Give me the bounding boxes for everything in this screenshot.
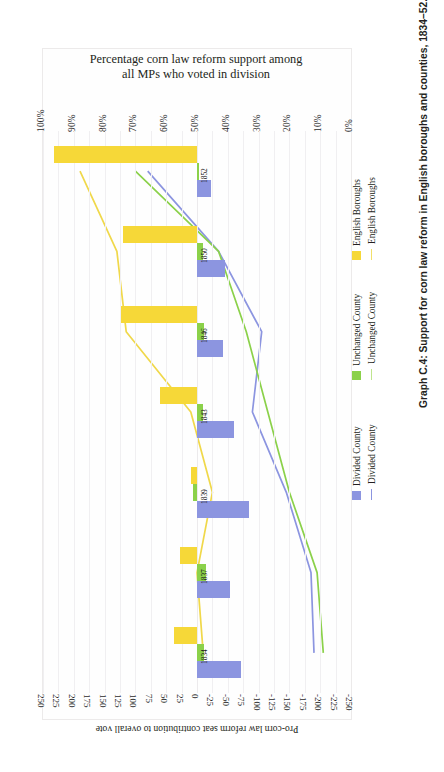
chart-title-line-1: Percentage corn law reform support among <box>46 52 346 67</box>
value-tick: 150 <box>98 694 108 708</box>
gridline <box>305 131 306 693</box>
percent-tick: 20% <box>282 114 292 132</box>
percent-tick: 90% <box>67 114 77 132</box>
legend-item[interactable]: Unchanged County <box>367 292 377 380</box>
legend-label: Unchanged County <box>352 294 362 366</box>
legend-item[interactable]: Unchanged County <box>352 294 362 380</box>
percent-tick: 40% <box>221 114 231 132</box>
gridline <box>135 131 136 693</box>
year-label: 1837 <box>200 569 209 584</box>
bar <box>193 484 197 501</box>
legend-label: English Boroughs <box>367 177 377 244</box>
bar <box>54 146 197 163</box>
legend-bar-swatch <box>352 251 361 260</box>
gridline <box>43 131 44 693</box>
percent-tick: 100% <box>36 109 46 132</box>
bar <box>121 306 197 323</box>
value-tick: 75 <box>144 694 154 703</box>
percent-tick: 10% <box>313 114 323 132</box>
value-tick: 200 <box>67 694 77 708</box>
bar <box>180 547 197 564</box>
legend-bar-swatch <box>352 371 361 380</box>
value-tick: -125 <box>267 694 277 711</box>
value-tick: -25 <box>205 694 215 706</box>
value-tick: -250 <box>344 694 354 711</box>
percent-tick: 80% <box>98 114 108 132</box>
value-tick: -200 <box>313 694 323 711</box>
value-tick: 25 <box>175 694 185 703</box>
gridline <box>320 131 321 693</box>
value-tick: -175 <box>298 694 308 711</box>
legend-label: Divided County <box>367 424 377 484</box>
plot-area: 1834183718391843184618501852 <box>43 131 351 693</box>
line-series <box>80 171 212 653</box>
figure-caption: Graph C.4: Support for corn law reform i… <box>418 48 429 408</box>
legend-item[interactable]: Divided County <box>367 424 377 500</box>
legend-line-swatch <box>371 369 372 380</box>
value-tick: -100 <box>252 694 262 711</box>
gridline <box>182 131 183 693</box>
bar <box>191 467 197 484</box>
gridline <box>228 131 229 693</box>
value-tick: -225 <box>329 694 339 711</box>
legend-line-swatch <box>371 489 372 500</box>
value-tick: 50 <box>159 694 169 703</box>
gridline <box>89 131 90 693</box>
percent-axis: 100%90%80%70%60%50%40%30%20%10%0% <box>42 86 352 132</box>
gridline <box>243 131 244 693</box>
chart-title: Percentage corn law reform support among… <box>46 52 346 81</box>
value-tick: -50 <box>221 694 231 706</box>
figure-page: Percentage corn law reform support among… <box>0 0 444 772</box>
value-tick: -75 <box>236 694 246 706</box>
gridline <box>336 131 337 693</box>
gridline <box>259 131 260 693</box>
value-tick: 0 <box>190 694 200 699</box>
bar <box>160 387 197 404</box>
legend-label: English Boroughs <box>352 179 362 246</box>
value-tick: -150 <box>282 694 292 711</box>
legend-line-swatch <box>371 249 372 260</box>
year-label: 1852 <box>200 168 209 183</box>
value-tick: 125 <box>113 694 123 708</box>
value-tick: 175 <box>82 694 92 708</box>
percent-tick: 30% <box>252 114 262 132</box>
gridline <box>289 131 290 693</box>
value-axis: 2502252001751501251007550250-25-50-75-10… <box>42 694 352 724</box>
gridline <box>166 131 167 693</box>
chart-legend: Divided CountyDivided CountyUnchanged Co… <box>352 140 414 660</box>
value-tick: 100 <box>128 694 138 708</box>
year-label: 1846 <box>200 328 209 343</box>
legend-label: Unchanged County <box>367 292 377 364</box>
legend-item[interactable]: Divided County <box>352 426 362 500</box>
value-tick: 225 <box>51 694 61 708</box>
percent-tick: 70% <box>128 114 138 132</box>
legend-item[interactable]: English Boroughs <box>352 179 362 260</box>
value-tick: 250 <box>36 694 46 708</box>
gridline <box>58 131 59 693</box>
gridline <box>120 131 121 693</box>
gridline <box>74 131 75 693</box>
bar <box>123 226 197 243</box>
value-axis-title: Pro-corn law reform seat contribution to… <box>42 724 352 735</box>
year-label: 1850 <box>200 248 209 263</box>
legend-label: Divided County <box>352 426 362 486</box>
chart-title-line-2: all MPs who voted in division <box>46 67 346 82</box>
bar <box>197 163 199 180</box>
gridline <box>151 131 152 693</box>
year-label: 1839 <box>200 489 209 504</box>
legend-bar-swatch <box>352 491 361 500</box>
percent-tick: 50% <box>190 114 200 132</box>
bar <box>174 627 197 644</box>
gridline <box>105 131 106 693</box>
year-label: 1843 <box>200 409 209 424</box>
year-label: 1834 <box>200 650 209 665</box>
legend-item[interactable]: English Boroughs <box>367 177 377 260</box>
gridline <box>212 131 213 693</box>
percent-tick: 60% <box>159 114 169 132</box>
gridline <box>274 131 275 693</box>
